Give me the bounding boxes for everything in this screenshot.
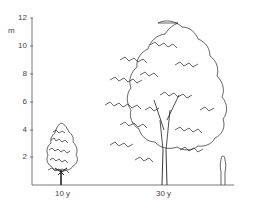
unit-label: m bbox=[8, 27, 15, 35]
y-axis-ticks bbox=[30, 18, 33, 157]
tick-label-10: 10 bbox=[13, 42, 27, 50]
small-tree-icon bbox=[47, 123, 77, 185]
person-silhouette-icon bbox=[220, 156, 226, 185]
tree-growth-diagram: m 12 10 8 6 4 2 10 y 30 y bbox=[0, 0, 265, 210]
tick-label-6: 6 bbox=[13, 98, 27, 106]
large-tree-icon bbox=[105, 21, 227, 185]
tick-label-4: 4 bbox=[13, 126, 27, 134]
tick-label-12: 12 bbox=[13, 14, 27, 22]
tick-label-2: 2 bbox=[13, 153, 27, 161]
tick-label-8: 8 bbox=[13, 70, 27, 78]
age-label-30y: 30 y bbox=[156, 190, 171, 198]
diagram-canvas bbox=[0, 0, 265, 210]
age-label-10y: 10 y bbox=[55, 190, 70, 198]
